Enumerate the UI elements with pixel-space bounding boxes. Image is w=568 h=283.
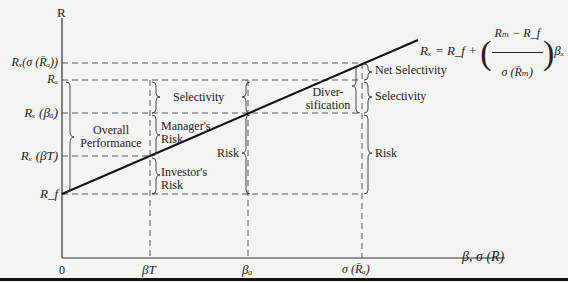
investor-risk-brace xyxy=(152,158,160,194)
selectivity-right-label: Selectivity xyxy=(375,90,426,103)
equation-right-paren: ) xyxy=(543,34,554,71)
selectivity-right-brace xyxy=(364,82,372,113)
x-tick-beta-a: βₐ xyxy=(242,263,252,276)
investor-risk-label: Investor's Risk xyxy=(161,166,207,192)
diversification-brace xyxy=(352,65,360,113)
risk-right-brace xyxy=(364,115,372,194)
y-tick-ra: Rₐ xyxy=(18,73,58,86)
selectivity-label: Selectivity xyxy=(173,91,224,104)
equation-fraction: Rₘ − R_fσ (R̄ₘ) xyxy=(492,15,543,90)
equation-denominator: σ (R̄ₘ) xyxy=(492,53,543,90)
y-tick-rx-beta-t: Rₓ (βT) xyxy=(8,149,58,162)
y-tick-rx-sigma: Rₓ(σ (R̄ₐ)) xyxy=(0,56,58,69)
equation-lhs: Rₓ = R_f + xyxy=(420,43,477,58)
selectivity-left-brace xyxy=(242,82,250,113)
overall-performance-label: Overall Performance xyxy=(76,124,146,150)
risk-left-brace xyxy=(242,115,250,194)
x-tick-sigma-ra: σ (R̄ₐ) xyxy=(342,263,370,276)
manager-risk-label: Manager's Risk xyxy=(161,120,210,146)
selectivity-brace xyxy=(152,82,160,113)
equation-numerator: Rₘ − R_f xyxy=(492,15,543,53)
market-line-equation: Rₓ = R_f + (Rₘ − R_fσ (R̄ₘ))βₓ xyxy=(420,15,565,90)
overall-performance-brace xyxy=(66,82,74,192)
net-selectivity-brace xyxy=(364,64,372,80)
bottom-rule xyxy=(0,278,568,281)
origin-label: 0 xyxy=(59,264,65,277)
y-tick-rx-beta-a: Rₓ (βₐ) xyxy=(8,106,58,119)
risk-right-label: Risk xyxy=(375,147,397,160)
equation-left-paren: ( xyxy=(480,34,491,71)
x-axis-label: β, σ (R) xyxy=(462,250,504,263)
y-tick-rf: R_f xyxy=(18,187,58,200)
equation-suffix: βₓ xyxy=(554,43,564,58)
net-selectivity-label: Net Selectivity xyxy=(375,64,447,77)
diversification-label: Diver- sification xyxy=(305,86,351,112)
x-tick-beta-t: βT xyxy=(142,263,156,276)
risk-mid-label: Risk xyxy=(217,147,239,160)
manager-risk-brace xyxy=(152,115,160,156)
y-axis-label: R xyxy=(57,6,66,19)
